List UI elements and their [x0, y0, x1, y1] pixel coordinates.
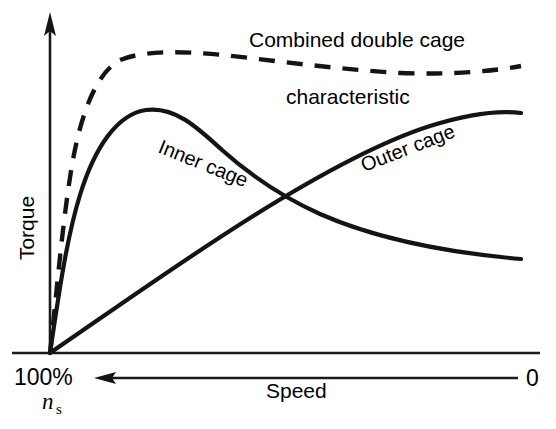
- curve-outer-cage: [50, 112, 521, 353]
- torque-speed-figure: Combined double cage characteristic Inne…: [0, 0, 556, 429]
- y-axis-group: [44, 12, 56, 353]
- label-x-tick-zero: 0: [526, 365, 539, 391]
- label-ns-symbol: n: [42, 389, 54, 414]
- label-x-axis-speed: Speed: [266, 379, 327, 402]
- label-x-tick-ns: n s: [42, 389, 62, 417]
- label-combined-double-cage-line1: Combined double cage: [249, 28, 465, 51]
- label-combined-double-cage-line2: characteristic: [286, 85, 410, 108]
- label-x-tick-100-percent: 100%: [14, 364, 73, 390]
- curve-inner-cage: [50, 110, 521, 353]
- label-y-axis-torque: Torque: [15, 196, 38, 260]
- label-ns-subscript: s: [56, 401, 62, 417]
- torque-speed-chart: Combined double cage characteristic Inne…: [0, 0, 556, 429]
